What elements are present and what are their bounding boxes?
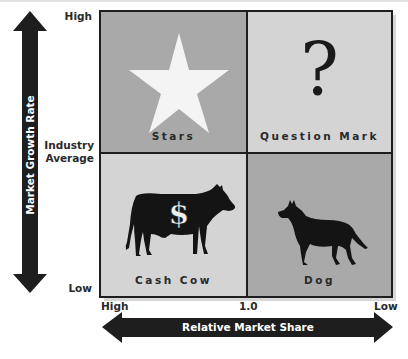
quadrant-label-stars: Stars (101, 130, 246, 142)
quadrant-cash-cow: $ Cash Cow (101, 154, 246, 296)
question-mark-icon: ? (248, 30, 391, 110)
quadrant-label-question-mark: Question Mark (248, 130, 391, 142)
x-label-mid: 1.0 (239, 300, 258, 312)
x-label-low: Low (374, 300, 398, 312)
quadrant-dog: Dog (248, 154, 391, 296)
y-label-industry: Industry (44, 139, 94, 152)
quadrant-label-dog: Dog (248, 274, 391, 286)
x-label-high: High (101, 300, 128, 312)
quadrant-question-mark: ? Question Mark (248, 12, 391, 152)
quadrant-label-cash-cow: Cash Cow (101, 274, 246, 286)
x-axis-title: Relative Market Share (182, 321, 314, 333)
quadrant-stars: Stars (101, 12, 246, 152)
y-label-average: Average (45, 152, 94, 165)
y-label-low: Low (68, 282, 92, 295)
matrix-grid: Stars ? Question Mark $ Cash Cow Dog (99, 10, 393, 298)
y-label-high: High (65, 10, 92, 23)
dollar-sign-icon: $ (169, 196, 190, 231)
